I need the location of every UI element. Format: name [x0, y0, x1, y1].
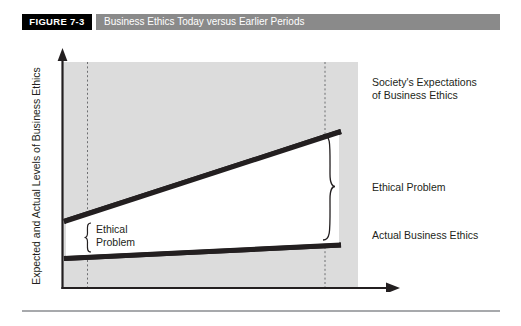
series-label-ethical-problem: Ethical Problem — [372, 181, 446, 193]
chart-svg: Ethical Problem Society's Expectations o… — [0, 34, 521, 292]
figure-number-badge: FIGURE 7-3 — [22, 14, 92, 30]
annotation-ethical-problem-left-line2: Problem — [96, 236, 135, 248]
x-axis-arrowhead — [386, 282, 400, 292]
chart-area: Ethical Problem Society's Expectations o… — [0, 34, 521, 292]
series-label-expectations-line2: of Business Ethics — [372, 89, 458, 101]
y-axis-title: Expected and Actual Levels of Business E… — [30, 67, 42, 285]
figure-title: Business Ethics Today versus Earlier Per… — [96, 14, 500, 30]
y-axis-arrowhead — [58, 48, 68, 61]
bottom-divider — [22, 310, 500, 312]
figure-header: FIGURE 7-3 Business Ethics Today versus … — [22, 14, 500, 30]
series-label-expectations-line1: Society's Expectations — [372, 76, 477, 88]
series-label-actual-ethics: Actual Business Ethics — [372, 229, 478, 241]
annotation-ethical-problem-left-line1: Ethical — [96, 223, 128, 235]
